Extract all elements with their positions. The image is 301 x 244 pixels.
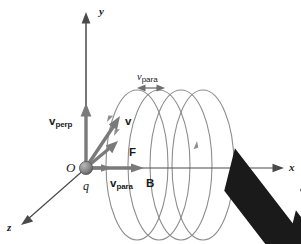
vector-arrow-overbar-icon: [129, 142, 136, 147]
vector-arrow-overbar-icon: [49, 111, 55, 116]
v-para-label: v para: [110, 178, 133, 190]
z-axis-label: z: [7, 222, 11, 233]
pitch-symbol: v: [137, 71, 142, 82]
v-total-symbol: v: [125, 116, 131, 128]
b-field-label: B: [146, 178, 154, 190]
v-para-subscript: para: [116, 182, 133, 191]
pitch-subscript: para: [142, 75, 158, 84]
vector-arrow-overbar-icon: [125, 111, 131, 116]
v-total-label: v: [125, 116, 131, 128]
y-axis-label: y: [99, 6, 104, 17]
physics-diagram: y x z O q v perp v F: [0, 0, 301, 244]
v-perp-label: v perp: [49, 116, 72, 128]
vector-arrow-overbar-icon: [146, 173, 154, 178]
force-symbol: F: [129, 147, 136, 159]
b-field-symbol: B: [146, 178, 154, 190]
pitch-label: vpara: [137, 72, 158, 83]
force-label: F: [129, 147, 136, 159]
vector-arrow-overbar-icon: [110, 173, 116, 178]
v-perp-subscript: perp: [55, 120, 72, 129]
